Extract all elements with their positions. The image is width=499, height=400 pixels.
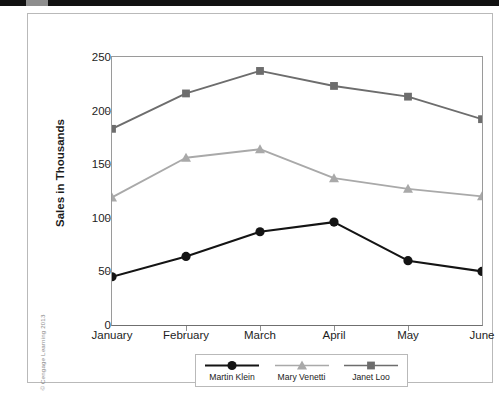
series-line [112, 149, 482, 197]
data-point-marker [181, 252, 190, 261]
legend-entry[interactable]: Janet Loo [342, 360, 400, 382]
legend-label: Janet Loo [352, 372, 390, 382]
data-point-marker [112, 192, 117, 201]
x-tick-label: January [92, 329, 133, 341]
data-point-marker [329, 217, 338, 226]
legend-swatch-square [342, 360, 400, 371]
data-point-marker [255, 227, 264, 236]
x-tick-mark [186, 326, 187, 331]
x-tick-mark [408, 326, 409, 331]
y-axis-ticks: 050100150200250 [28, 14, 111, 334]
data-point-marker [182, 90, 190, 98]
y-tick-label: 100 [65, 212, 111, 224]
data-point-marker [367, 362, 375, 370]
series-janet-loo [112, 67, 482, 133]
x-tick-mark [334, 326, 335, 331]
y-tick-label: 250 [65, 51, 111, 63]
series-line [112, 222, 482, 277]
y-tick-label: 200 [65, 105, 111, 117]
series-martin-klein [112, 217, 482, 281]
series-plot [112, 57, 482, 325]
data-point-marker [227, 361, 236, 370]
figure-card: © Cengage Learning 2013 Sales in Thousan… [27, 13, 493, 383]
legend-label: Mary Venetti [278, 372, 326, 382]
data-point-marker [477, 267, 482, 276]
y-tick-label: 50 [65, 265, 111, 277]
x-tick-mark [260, 326, 261, 331]
legend-entry[interactable]: Mary Venetti [273, 360, 331, 382]
legend-swatch-circle [203, 360, 261, 371]
x-tick-label: June [470, 329, 495, 341]
legend-entry[interactable]: Martin Klein [203, 360, 261, 382]
top-dark-bar [0, 0, 499, 6]
legend-label: Martin Klein [209, 372, 254, 382]
data-point-marker [404, 93, 412, 101]
data-point-marker [478, 115, 482, 123]
data-point-marker [403, 256, 412, 265]
data-point-marker [256, 67, 264, 75]
top-bar-tab [26, 0, 48, 6]
series-mary-venetti [112, 144, 482, 201]
chart-legend: Martin KleinMary VenettiJanet Loo [195, 354, 408, 387]
data-point-marker [330, 82, 338, 90]
data-point-marker [112, 125, 116, 133]
y-tick-label: 150 [65, 158, 111, 170]
data-point-marker [112, 272, 117, 281]
series-line [112, 71, 482, 129]
legend-swatch-triangle [273, 360, 331, 371]
plot-area [111, 56, 483, 326]
